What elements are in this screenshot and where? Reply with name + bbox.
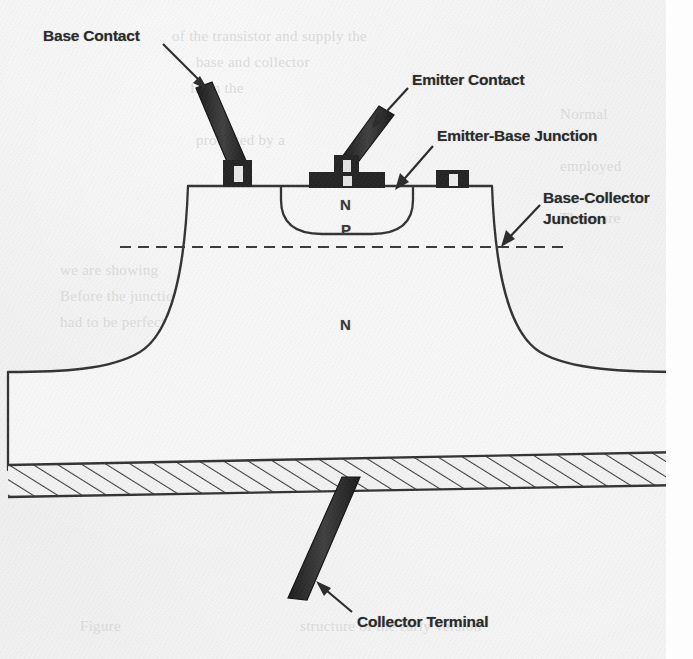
base-contact-pad-notch — [234, 166, 243, 182]
collector-terminal-assembly[interactable] — [288, 477, 360, 600]
right-contact-pad-notch — [449, 174, 458, 186]
emitter-contact-pad-notch — [343, 176, 352, 186]
collector-lead-wire[interactable] — [288, 477, 360, 600]
callout-label-base-collector-junction: Base-Collector Junction — [543, 187, 693, 229]
base-contact-assembly[interactable] — [196, 82, 252, 187]
region-label-collector: N — [340, 316, 351, 333]
region-label-base: P — [341, 221, 351, 238]
region-label-emitter: N — [340, 196, 351, 213]
callout-label-base-contact: Base Contact — [43, 26, 140, 45]
callout-label-collector-terminal: Collector Terminal — [357, 612, 488, 631]
callout-label-emitter-base-junction: Emitter-Base Junction — [437, 126, 597, 145]
callout-label-emitter-contact: Emitter Contact — [412, 70, 524, 89]
figure-canvas: of the transistor and supply the base an… — [0, 0, 693, 659]
right-base-contact-pad[interactable] — [436, 170, 469, 188]
